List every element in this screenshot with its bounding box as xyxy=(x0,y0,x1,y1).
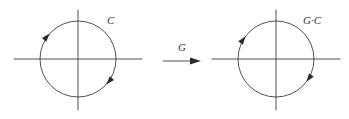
target-curve-label: G·C xyxy=(303,14,322,26)
upper-left-orientation-arrow xyxy=(238,36,245,45)
figure-canvas: C G G·C xyxy=(0,0,349,119)
upper-left-orientation-arrow xyxy=(42,34,50,42)
math-figure: C G G·C xyxy=(0,0,349,119)
source-panel: C xyxy=(14,10,142,110)
map-arrow-head xyxy=(190,58,201,65)
target-panel: G·C xyxy=(212,10,340,110)
map-arrow-group: G xyxy=(163,41,201,65)
lower-right-orientation-arrow xyxy=(306,73,313,82)
source-curve-label: C xyxy=(107,14,115,26)
lower-right-orientation-arrow xyxy=(106,76,114,84)
map-arrow-label: G xyxy=(178,41,186,53)
